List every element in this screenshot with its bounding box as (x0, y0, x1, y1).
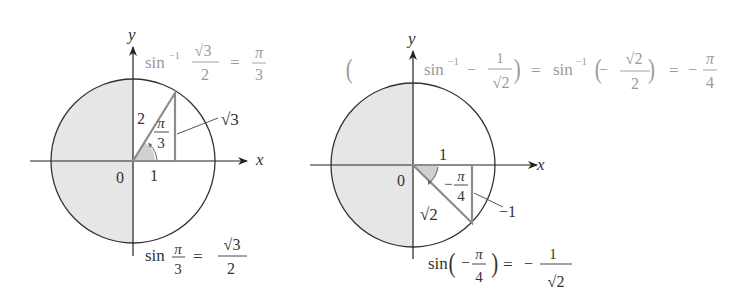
svg-text:−: − (599, 61, 608, 78)
left-adjacent-label: 1 (150, 167, 158, 184)
svg-text:3: 3 (157, 135, 165, 151)
svg-text:sin: sin (428, 254, 448, 273)
svg-text:−: − (524, 255, 533, 272)
svg-text:2: 2 (631, 75, 639, 92)
svg-text:sin: sin (424, 60, 444, 79)
svg-text:=: = (669, 61, 679, 80)
svg-text:π: π (475, 246, 483, 262)
svg-text:π: π (255, 44, 264, 61)
left-y-label: y (126, 25, 136, 44)
svg-text:4: 4 (475, 269, 483, 285)
svg-text:2: 2 (227, 260, 235, 277)
svg-text:−: − (461, 254, 470, 271)
left-opposite-label: √3 (221, 110, 239, 129)
right-adjacent-label: 1 (439, 146, 447, 163)
svg-text:π: π (157, 115, 165, 131)
svg-text:(: ( (449, 247, 456, 279)
svg-text:√2: √2 (548, 273, 565, 290)
svg-text:3: 3 (174, 261, 182, 277)
svg-text:1: 1 (496, 50, 504, 66)
right-y-label: y (406, 29, 416, 48)
svg-text:−1: −1 (448, 56, 459, 67)
svg-text:√3: √3 (195, 42, 212, 59)
left-origin-label: 0 (116, 169, 124, 186)
svg-text:sin: sin (145, 246, 165, 265)
svg-text:3: 3 (255, 66, 263, 83)
svg-text:√2: √2 (493, 74, 510, 91)
svg-text:=: = (230, 53, 240, 72)
svg-text:π: π (706, 50, 715, 67)
svg-text:√3: √3 (224, 236, 241, 253)
right-origin-label: 0 (397, 172, 405, 189)
left-figure: y x 0 1 2 √3 π 3 sin −1 √3 2 = π 3 sin π (30, 25, 266, 277)
svg-text:−: − (688, 61, 697, 78)
svg-text:sin: sin (145, 53, 165, 72)
right-x-label: x (536, 155, 545, 174)
right-bottom-equation: sin ( − π 4 ) = − 1 √2 (428, 246, 572, 290)
right-figure: y x 0 1 √2 −1 − π 4 sin −1 ( − 1 √2 ) = … (310, 29, 717, 290)
svg-text:√2: √2 (626, 50, 643, 67)
svg-text:−: − (467, 61, 476, 78)
svg-text:−: − (444, 176, 452, 192)
svg-text:=: = (503, 255, 513, 274)
svg-text:(: ( (346, 53, 353, 85)
left-hypotenuse-label: 2 (137, 110, 145, 127)
svg-text:=: = (193, 247, 203, 266)
svg-text:4: 4 (706, 74, 714, 91)
right-opposite-label: −1 (499, 203, 516, 220)
svg-text:): ) (648, 53, 655, 85)
diagram-canvas: y x 0 1 2 √3 π 3 sin −1 √3 2 = π 3 sin π (0, 0, 744, 302)
left-x-label: x (255, 150, 264, 169)
svg-text:): ) (491, 247, 498, 279)
left-angle-label: π 3 (154, 115, 169, 151)
svg-text:π: π (457, 168, 465, 184)
svg-text:4: 4 (457, 188, 465, 204)
right-hypotenuse-label: √2 (420, 205, 438, 224)
svg-text:−1: −1 (576, 56, 587, 67)
svg-text:): ) (514, 53, 521, 85)
svg-text:=: = (531, 61, 541, 80)
left-top-equation: sin −1 √3 2 = π 3 (145, 42, 266, 83)
svg-text:sin: sin (553, 60, 573, 79)
svg-text:−1: −1 (169, 50, 180, 61)
svg-text:2: 2 (201, 66, 209, 83)
svg-text:1: 1 (549, 246, 557, 262)
left-leader-line (177, 118, 218, 134)
svg-text:π: π (174, 241, 182, 257)
left-bottom-equation: sin π 3 = √3 2 (145, 236, 247, 277)
